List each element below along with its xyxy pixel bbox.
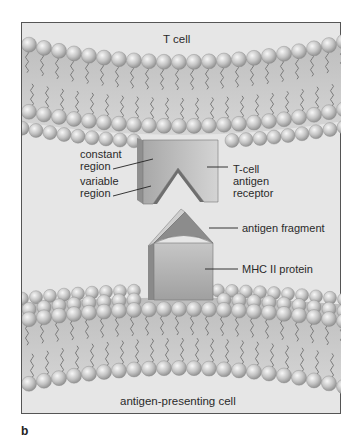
- mhc-ii-protein-label: MHC II protein: [242, 263, 313, 275]
- t-cell-label: T cell: [163, 33, 190, 45]
- t-cell-antigen-receptor-label: T-cell antigen receptor: [233, 163, 273, 199]
- panel-letter: b: [21, 424, 28, 438]
- diagram-illustration: [0, 0, 360, 439]
- constant-region-label: constant region: [80, 148, 122, 172]
- membrane-interaction-diagram: T cell constant region variable region T…: [0, 0, 360, 439]
- variable-region-label: variable region: [80, 175, 119, 199]
- antigen-presenting-cell-label: antigen-presenting cell: [120, 395, 236, 407]
- antigen-fragment-label: antigen fragment: [242, 222, 325, 234]
